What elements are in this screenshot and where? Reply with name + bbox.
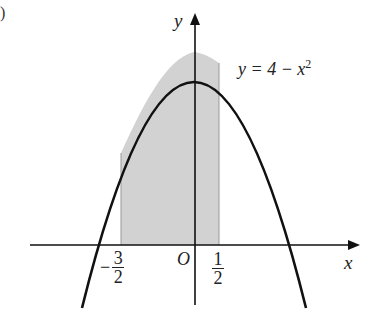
part-label: )	[0, 4, 5, 22]
origin-label: O	[177, 249, 190, 270]
right-num: 1	[214, 250, 223, 268]
right-bound-label: 1 2	[212, 249, 224, 287]
minus-sign: −	[100, 257, 110, 278]
left-bound-label: − 3 2	[100, 249, 124, 286]
equation-text: y = 4 − x	[238, 59, 305, 79]
x-axis-arrow-icon	[348, 240, 360, 250]
diagram	[0, 0, 375, 326]
equation-label: y = 4 − x2	[238, 57, 311, 80]
left-num: 3	[114, 249, 123, 267]
y-axis-arrow-icon	[190, 13, 200, 25]
right-den: 2	[214, 269, 223, 287]
x-axis-label: x	[344, 252, 352, 274]
left-den: 2	[114, 268, 123, 286]
shaded-region	[121, 52, 219, 245]
equation-exponent: 2	[305, 57, 311, 71]
y-axis-label: y	[174, 10, 182, 32]
